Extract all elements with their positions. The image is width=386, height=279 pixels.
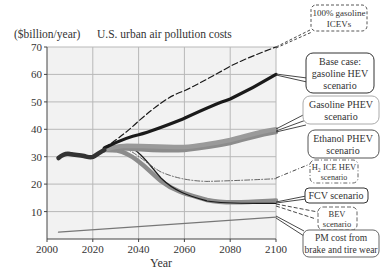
- svg-text:brake and tire wear: brake and tire wear: [304, 245, 378, 255]
- y-tick-labels: 70 60 50 40 30 20 10: [31, 41, 43, 218]
- x-tick-2080: 2080: [219, 243, 242, 255]
- callout-fcv: FCV scenario: [305, 188, 368, 203]
- callout-bev: BEV scenario: [318, 207, 357, 230]
- svg-text:scenario: scenario: [321, 173, 348, 182]
- svg-text:scenario: scenario: [324, 111, 357, 122]
- svg-text:Ethanol PHEV: Ethanol PHEV: [313, 133, 373, 144]
- x-tick-2060: 2060: [173, 243, 196, 255]
- svg-text:scenario: scenario: [326, 145, 359, 156]
- svg-text:FCV scenario: FCV scenario: [308, 190, 363, 201]
- svg-text:100% gasoline: 100% gasoline: [312, 8, 365, 18]
- y-tick-20: 20: [31, 178, 43, 190]
- y-tick-50: 50: [31, 96, 43, 108]
- x-tick-2020: 2020: [82, 243, 105, 255]
- y-tick-40: 40: [31, 123, 43, 135]
- svg-text:gasoline HEV: gasoline HEV: [312, 68, 369, 79]
- callout-ethanol-phev: Ethanol PHEV scenario: [308, 130, 379, 158]
- svg-text:Gasoline PHEV: Gasoline PHEV: [309, 99, 374, 110]
- x-axis-label: Year: [150, 256, 172, 270]
- svg-text:ICEVs: ICEVs: [327, 19, 352, 29]
- callout-100pct-gasoline-icev: 100% gasoline ICEVs: [311, 5, 367, 31]
- y-axis-label: ($billion/year): [14, 28, 81, 41]
- pollution-cost-chart: 70 60 50 40 30 20 10 2000 2020 2040 2060…: [0, 0, 386, 279]
- svg-text:H₂ ICE HEV: H₂ ICE HEV: [312, 162, 357, 172]
- svg-text:scenario: scenario: [323, 80, 356, 91]
- svg-text:scenario: scenario: [323, 219, 351, 229]
- x-tick-2100: 2100: [265, 243, 288, 255]
- callout-pm-brake-tire: PM cost from brake and tire wear: [303, 230, 379, 257]
- svg-text:BEV: BEV: [329, 209, 347, 219]
- y-tick-30: 30: [31, 151, 43, 163]
- callout-h2-ice-hev: H₂ ICE HEV scenario: [310, 160, 358, 183]
- y-tick-70: 70: [31, 41, 43, 53]
- x-tick-labels: 2000 2020 2040 2060 2080 2100: [36, 243, 288, 255]
- svg-text:PM cost from: PM cost from: [315, 233, 368, 243]
- x-tick-2000: 2000: [36, 243, 59, 255]
- callouts: 100% gasoline ICEVs Base case: gasoline …: [303, 5, 379, 257]
- x-tick-2040: 2040: [128, 243, 151, 255]
- chart-title: U.S. urban air pollution costs: [97, 28, 232, 41]
- y-tick-60: 60: [31, 68, 43, 80]
- plot-area: [47, 47, 276, 239]
- y-tick-10: 10: [31, 206, 43, 218]
- callout-base-case-hev: Base case: gasoline HEV scenario: [306, 53, 374, 93]
- svg-text:Base case:: Base case:: [319, 56, 361, 67]
- callout-gasoline-phev: Gasoline PHEV scenario: [303, 96, 379, 124]
